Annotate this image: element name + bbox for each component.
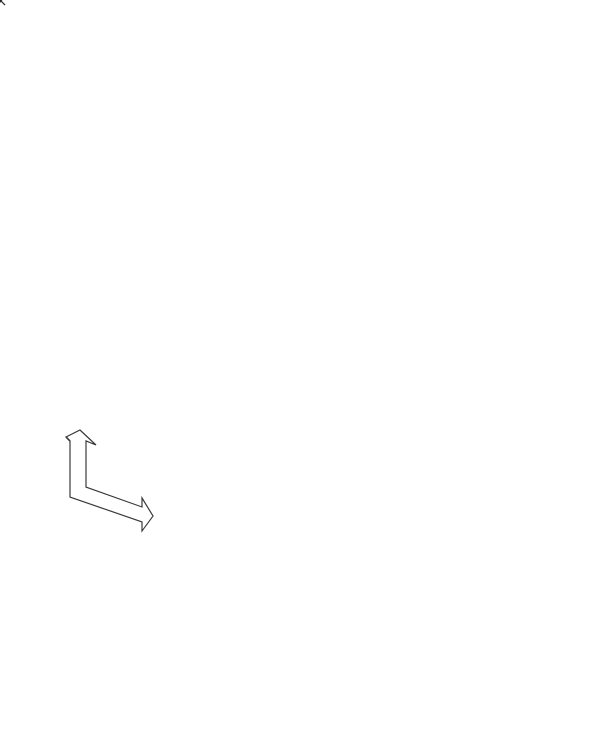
ucs-arrow-outline [66,430,153,531]
drawing-viewport[interactable] [0,0,590,734]
ucs-arrow-edge [66,437,70,441]
ucs-icon [66,430,153,531]
